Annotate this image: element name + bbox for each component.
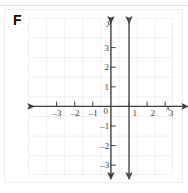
x-tick-label--3: –3 — [52, 109, 61, 118]
y-tick-label-2: 2 — [105, 63, 110, 72]
top-divider — [0, 5, 188, 6]
x-tick-label-1: 1 — [133, 109, 138, 118]
y-tick-label-1: 1 — [105, 83, 110, 92]
y-tick-label--3: –3 — [100, 161, 109, 170]
y-tick-label--1: –1 — [100, 122, 109, 131]
y-tick-label-3: 3 — [105, 44, 110, 53]
x-tick-label--2: –2 — [71, 109, 80, 118]
x-tick-label--1: –1 — [89, 109, 98, 118]
origin-label: 0 — [104, 107, 109, 116]
graph-figure: F — [0, 0, 188, 193]
y-axis — [111, 20, 116, 176]
y-tick-label--2: –2 — [100, 142, 109, 151]
x-tick-label-2: 2 — [151, 109, 156, 118]
plot-area: –3 –2 –1 1 2 3 0 3 2 1 –1 –2 –3 y x — [28, 18, 173, 175]
y-axis-label: y — [107, 18, 111, 27]
x-axis — [31, 102, 185, 107]
x-axis-label: x — [166, 103, 170, 112]
